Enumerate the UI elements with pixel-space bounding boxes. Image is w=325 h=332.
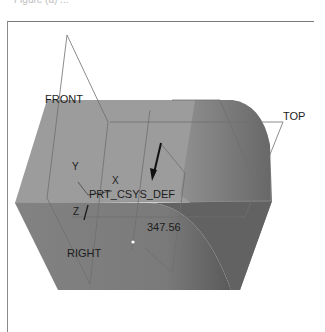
- z-axis-label: Z: [73, 207, 79, 217]
- y-axis-label: Y: [72, 162, 79, 172]
- csys-label[interactable]: PRT_CSYS_DEF: [89, 189, 175, 200]
- dimension-value[interactable]: 347.56: [147, 222, 181, 233]
- top-plane-label[interactable]: TOP: [283, 111, 305, 122]
- dimension-point: [131, 240, 134, 243]
- right-plane-label[interactable]: RIGHT: [67, 248, 101, 259]
- x-axis-label: X: [112, 176, 119, 186]
- front-plane-label[interactable]: FRONT: [45, 94, 83, 105]
